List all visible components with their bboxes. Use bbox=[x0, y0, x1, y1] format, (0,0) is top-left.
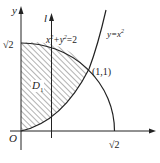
svg-text:x2+y2=2: x2+y2=2 bbox=[45, 34, 77, 45]
x-axis bbox=[10, 129, 156, 134]
region-d1-label: D1 bbox=[31, 79, 44, 94]
x-axis-arrow-icon bbox=[149, 129, 156, 134]
diagram-canvas: y l √2 √2 O x2+y2=2 y=x2 (1,1) D1 bbox=[0, 0, 160, 163]
y-tick-sqrt2-label: √2 bbox=[3, 39, 14, 50]
y-axis-label: y bbox=[11, 4, 17, 16]
origin-label: O bbox=[9, 132, 17, 144]
x-tick-sqrt2-label: √2 bbox=[109, 139, 120, 150]
circle-equation-label: x2+y2=2 bbox=[45, 34, 77, 45]
intersection-point-label: (1,1) bbox=[92, 66, 111, 78]
y-axis-arrow-icon bbox=[19, 6, 24, 14]
parabola-equation-label: y=x2 bbox=[106, 28, 124, 39]
svg-text:y=x2: y=x2 bbox=[106, 28, 124, 39]
line-l-arrow-icon bbox=[49, 13, 54, 21]
line-l-label: l bbox=[44, 12, 47, 24]
